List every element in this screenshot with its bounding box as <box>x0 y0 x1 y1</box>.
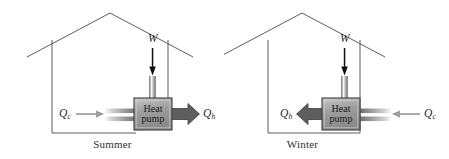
hot-arrow-summer <box>170 104 200 125</box>
heat-pump-label-line2: pump <box>330 114 353 125</box>
cold-arrow-winter <box>392 110 420 117</box>
figure-canvas: Heat pump Qc Qh W Summer <box>0 0 449 159</box>
caption-winter: Winter <box>190 138 415 150</box>
summer-diagram <box>0 0 225 159</box>
heat-pump-label-summer: Heat pump <box>134 98 172 130</box>
panel-summer: Heat pump Qc Qh W Summer <box>0 0 225 159</box>
cold-heat-symbol: Q <box>59 107 67 119</box>
cold-heat-subscript: c <box>433 112 436 121</box>
cold-heat-label-winter: Qc <box>424 107 436 119</box>
hot-heat-label-summer: Qh <box>203 107 215 119</box>
work-arrow-summer <box>149 48 156 76</box>
work-pipe-winter <box>342 76 348 100</box>
cold-heat-subscript: c <box>68 112 71 121</box>
winter-diagram <box>224 0 449 159</box>
cold-arrow-summer <box>76 110 104 117</box>
work-pipe-summer <box>150 76 156 100</box>
hot-heat-subscript: h <box>212 112 216 121</box>
heat-pump-label-line2: pump <box>142 114 165 125</box>
work-label-summer: W <box>148 32 158 44</box>
panel-winter: Heat pump Qh Qc W Winter <box>224 0 449 159</box>
cold-heat-band-winter <box>360 109 392 122</box>
cold-heat-band-summer <box>104 109 136 122</box>
hot-heat-symbol: Q <box>203 107 211 119</box>
work-arrow-winter <box>341 48 348 76</box>
hot-heat-label-winter: Qh <box>280 107 292 119</box>
hot-heat-subscript: h <box>289 112 293 121</box>
heat-pump-label-winter: Heat pump <box>322 98 360 130</box>
hot-heat-symbol: Q <box>280 107 288 119</box>
cold-heat-symbol: Q <box>424 107 432 119</box>
work-label-winter: W <box>340 32 350 44</box>
cold-heat-label-summer: Qc <box>59 107 71 119</box>
